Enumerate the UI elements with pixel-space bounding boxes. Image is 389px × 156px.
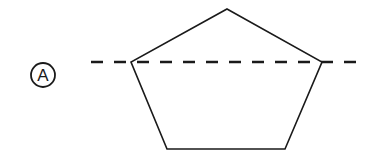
label-text: A xyxy=(37,66,49,85)
pentagon-shape xyxy=(131,9,322,149)
diagram-canvas: A xyxy=(0,0,389,156)
label-a-marker: A xyxy=(31,63,55,87)
